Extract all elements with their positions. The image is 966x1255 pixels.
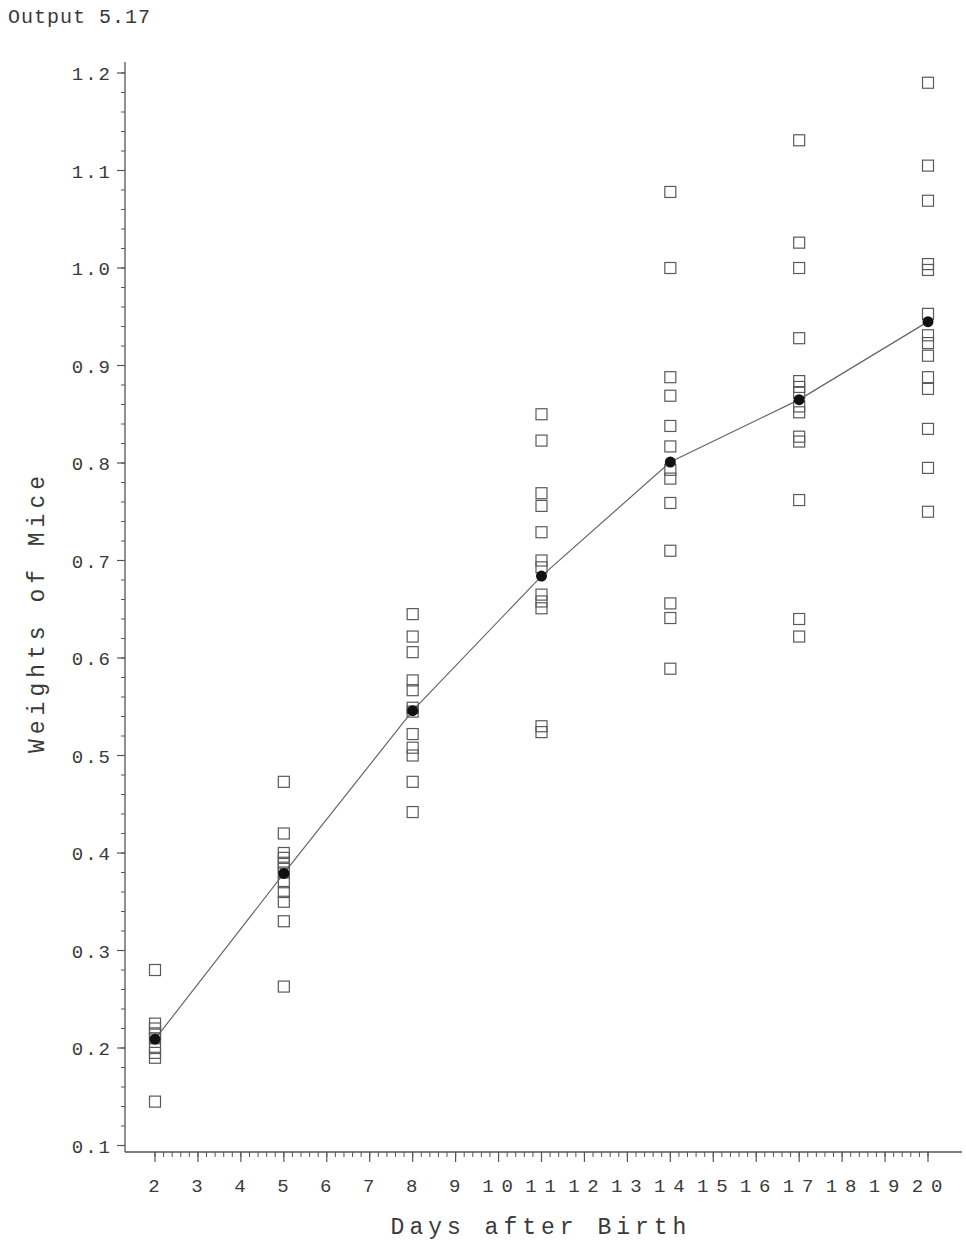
data-point-square — [665, 497, 676, 508]
x-tick-label: 2 — [148, 1176, 161, 1198]
data-point-square — [407, 742, 418, 753]
data-point-square — [407, 807, 418, 818]
data-point-square — [665, 390, 676, 401]
data-point-square — [923, 350, 934, 361]
x-tick-label: 1 1 — [525, 1176, 558, 1198]
data-point-square — [536, 555, 547, 566]
data-point-square — [536, 603, 547, 614]
data-point-square — [536, 488, 547, 499]
mean-markers — [150, 316, 934, 1045]
data-point-square — [150, 1047, 161, 1058]
y-tick-label: 0.8 — [72, 454, 112, 476]
data-point-square — [150, 1096, 161, 1107]
x-tick-label: 4 — [234, 1176, 247, 1198]
data-point-square — [665, 598, 676, 609]
x-tick-label: 2 0 — [912, 1176, 945, 1198]
mean-line — [155, 322, 928, 1040]
mean-point — [794, 394, 805, 405]
x-tick-label: 1 6 — [740, 1176, 773, 1198]
data-point-square — [536, 409, 547, 420]
data-point-square — [794, 614, 805, 625]
data-point-square — [407, 631, 418, 642]
data-point-square — [923, 77, 934, 88]
data-point-square — [665, 663, 676, 674]
data-point-square — [665, 186, 676, 197]
x-tick-label: 1 9 — [869, 1176, 902, 1198]
y-tick-label: 0.3 — [72, 942, 112, 964]
data-point-square — [794, 436, 805, 447]
x-tick-label: 5 — [277, 1176, 290, 1198]
data-point-square — [536, 500, 547, 511]
data-point-square — [923, 160, 934, 171]
data-point-square — [794, 431, 805, 442]
data-point-square — [278, 828, 289, 839]
data-point-square — [407, 776, 418, 787]
data-point-square — [923, 423, 934, 434]
mean-point — [923, 316, 934, 327]
mean-point — [536, 571, 547, 582]
data-point-square — [278, 916, 289, 927]
data-point-square — [665, 441, 676, 452]
data-point-square — [923, 506, 934, 517]
x-tick-label: 1 2 — [568, 1176, 601, 1198]
data-point-square — [794, 333, 805, 344]
x-tick-label: 1 4 — [654, 1176, 687, 1198]
data-point-square — [665, 263, 676, 274]
x-tick-label: 9 — [449, 1176, 462, 1198]
y-tick-label: 0.4 — [72, 844, 112, 866]
data-point-square — [536, 596, 547, 607]
mean-point — [278, 868, 289, 879]
mean-point — [665, 457, 676, 468]
x-axis: 234567891 01 11 21 31 41 51 61 71 81 92 … — [125, 1152, 962, 1198]
mean-point — [150, 1034, 161, 1045]
data-point-square — [794, 135, 805, 146]
data-points — [150, 77, 934, 1107]
y-tick-label: 1.1 — [72, 162, 112, 184]
x-tick-label: 8 — [406, 1176, 419, 1198]
x-tick-label: 1 7 — [783, 1176, 816, 1198]
data-point-square — [794, 263, 805, 274]
y-tick-label: 1.0 — [72, 259, 112, 281]
data-point-square — [407, 750, 418, 761]
y-axis: 0.10.20.30.40.50.60.70.80.91.01.11.2 — [72, 62, 125, 1159]
data-point-square — [278, 981, 289, 992]
data-point-square — [923, 338, 934, 349]
data-point-square — [150, 965, 161, 976]
data-point-square — [923, 462, 934, 473]
data-point-square — [923, 195, 934, 206]
data-point-square — [923, 330, 934, 341]
data-point-square — [407, 729, 418, 740]
data-point-square — [794, 631, 805, 642]
y-tick-label: 0.2 — [72, 1039, 112, 1061]
data-point-square — [407, 609, 418, 620]
y-tick-label: 0.7 — [72, 552, 112, 574]
x-tick-label: 6 — [320, 1176, 333, 1198]
y-tick-label: 0.5 — [72, 747, 112, 769]
x-tick-label: 1 8 — [826, 1176, 859, 1198]
x-tick-label: 1 3 — [611, 1176, 644, 1198]
data-point-square — [665, 545, 676, 556]
data-point-square — [794, 237, 805, 248]
data-point-square — [923, 372, 934, 383]
y-axis-title: Weights of Mice — [25, 471, 51, 753]
y-tick-label: 0.1 — [72, 1137, 112, 1159]
y-tick-label: 1.2 — [72, 64, 112, 86]
x-axis-title: Days after Birth — [391, 1215, 692, 1241]
y-tick-label: 0.6 — [72, 649, 112, 671]
x-tick-label: 3 — [191, 1176, 204, 1198]
data-point-square — [536, 527, 547, 538]
data-point-square — [536, 589, 547, 600]
data-point-square — [923, 383, 934, 394]
data-point-square — [665, 613, 676, 624]
data-point-square — [407, 647, 418, 658]
mean-point — [407, 705, 418, 716]
data-point-square — [278, 776, 289, 787]
data-point-square — [794, 495, 805, 506]
mice-weight-chart: 0.10.20.30.40.50.60.70.80.91.01.11.2 234… — [0, 0, 966, 1255]
x-tick-label: 7 — [363, 1176, 376, 1198]
data-point-square — [536, 435, 547, 446]
y-tick-label: 0.9 — [72, 357, 112, 379]
x-tick-label: 1 0 — [482, 1176, 515, 1198]
x-tick-label: 1 5 — [697, 1176, 730, 1198]
data-point-square — [665, 420, 676, 431]
